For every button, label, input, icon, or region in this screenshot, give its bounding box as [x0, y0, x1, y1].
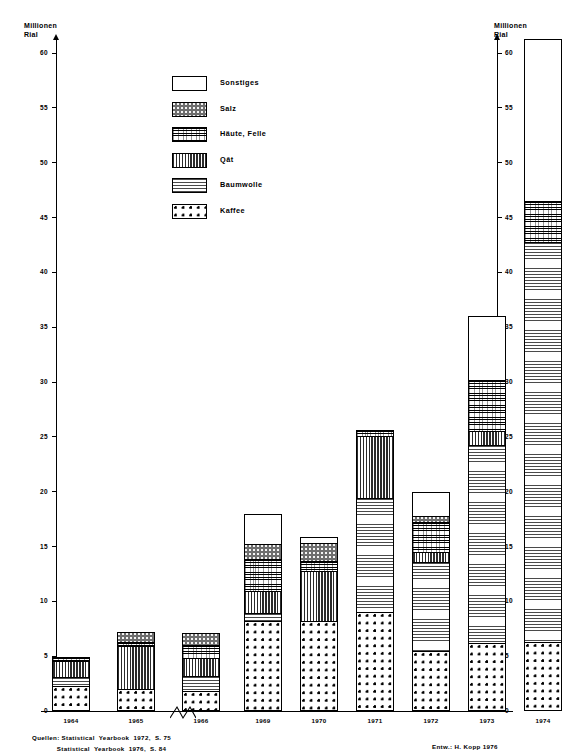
x-tick-label: 1974	[520, 717, 566, 724]
bar-segment-h-ute-felle	[52, 657, 90, 660]
bar-segment-h-ute-felle	[468, 380, 506, 432]
y-tick-label: 10	[505, 597, 523, 604]
swatch-crosshatch-icon	[172, 127, 207, 142]
y-tick-label: 25	[505, 433, 523, 440]
bar-segment-salz	[117, 632, 155, 642]
y-tick-label: 30	[505, 378, 523, 385]
bar-segment-sonstiges	[524, 39, 562, 201]
legend-label: Baumwolle	[220, 180, 263, 189]
y-tick-label: 55	[505, 104, 523, 111]
legend-label: Sonstiges	[220, 78, 259, 87]
bar-segment-h-ute-felle	[182, 645, 220, 658]
y-tick-label: 60	[30, 49, 48, 56]
bar-segment-kaffee	[244, 621, 282, 711]
y-tick-label: 15	[30, 543, 48, 550]
y-tick-label: 5	[505, 652, 523, 659]
legend-label: Kaffee	[220, 206, 245, 215]
bar-segment-q-t	[300, 571, 338, 621]
legend-swatch-fill	[173, 205, 206, 218]
legend-swatch-fill	[173, 179, 206, 192]
bar-segment-baumwolle	[412, 562, 450, 651]
bar-segment-kaffee	[356, 612, 394, 711]
bar-segment-q-t	[412, 552, 450, 562]
y-tick-label: 0	[30, 707, 48, 714]
bar-segment-salz	[300, 543, 338, 561]
y-tick-label: 45	[30, 214, 48, 221]
axis-break-icon	[170, 703, 196, 721]
bar-segment-salz	[244, 544, 282, 558]
bar-segment-q-t	[117, 646, 155, 689]
swatch-dark-stipple-icon	[172, 102, 207, 117]
bar-segment-sonstiges	[300, 537, 338, 544]
bar-segment-kaffee	[117, 689, 155, 711]
bar-1970	[300, 0, 338, 711]
bar-segment-kaffee	[300, 621, 338, 711]
bar-1972	[412, 0, 450, 711]
bar-segment-sonstiges	[244, 514, 282, 545]
y-tick-label: 0	[505, 707, 523, 714]
y-tick-label: 45	[505, 214, 523, 221]
y-tick-label: 60	[505, 49, 523, 56]
bar-1974	[524, 0, 562, 711]
bar-segment-baumwolle	[52, 677, 90, 686]
x-tick-label: 1971	[352, 717, 398, 724]
bar-segment-h-ute-felle	[117, 642, 155, 646]
legend-label: Salz	[220, 104, 236, 113]
source-note: Quellen: Statistical Yearbook 1972, S. 7…	[32, 733, 171, 754]
y-tick-label: 40	[505, 268, 523, 275]
y-tick-label: 35	[30, 323, 48, 330]
author-note: Entw.: H. Kopp 1976	[432, 743, 498, 750]
bar-segment-sonstiges	[412, 492, 450, 516]
x-axis	[41, 711, 513, 712]
y-tick-label: 10	[30, 597, 48, 604]
bar-segment-sonstiges	[468, 316, 506, 380]
y-tick-label: 55	[30, 104, 48, 111]
bar-segment-baumwolle	[182, 676, 220, 691]
bar-segment-h-ute-felle	[412, 522, 450, 552]
y-tick-label: 5	[30, 652, 48, 659]
bar-segment-kaffee	[468, 643, 506, 711]
bar-segment-q-t	[244, 591, 282, 613]
bar-segment-h-ute-felle	[356, 430, 394, 435]
bar-segment-baumwolle	[468, 445, 506, 643]
bar-segment-baumwolle	[356, 498, 394, 612]
bar-1973	[468, 0, 506, 711]
bar-segment-salz	[182, 633, 220, 645]
bar-segment-kaffee	[412, 651, 450, 711]
y-tick-label: 30	[30, 378, 48, 385]
bar-segment-salz	[412, 516, 450, 523]
x-tick-label: 1970	[296, 717, 342, 724]
y-tick-label: 35	[505, 323, 523, 330]
legend-swatch-fill	[173, 103, 206, 116]
x-tick-label: 1969	[240, 717, 286, 724]
bar-1964	[52, 0, 90, 711]
bar-segment-kaffee	[524, 642, 562, 711]
swatch-empty-icon	[172, 76, 207, 91]
y-tick-label: 20	[505, 488, 523, 495]
y-tick-label: 15	[505, 543, 523, 550]
bar-segment-q-t	[52, 661, 90, 677]
y-tick-label: 25	[30, 433, 48, 440]
bar-segment-kaffee	[52, 686, 90, 711]
x-tick-label: 1965	[113, 717, 159, 724]
legend-swatch-fill	[173, 77, 206, 90]
x-tick-label: 1973	[464, 717, 510, 724]
x-tick-label: 1964	[48, 717, 94, 724]
legend-swatch-fill	[173, 128, 206, 141]
x-tick-label: 1972	[408, 717, 454, 724]
swatch-vertical-lines-icon	[172, 153, 207, 168]
bar-1965	[117, 0, 155, 711]
bar-segment-baumwolle	[524, 242, 562, 642]
y-tick-label: 40	[30, 268, 48, 275]
bar-segment-h-ute-felle	[300, 561, 338, 571]
legend-swatch-fill	[173, 154, 206, 167]
y-tick-label: 20	[30, 488, 48, 495]
legend-label: Qāt	[220, 155, 234, 164]
bar-segment-q-t	[468, 431, 506, 444]
y-tick-label: 50	[505, 159, 523, 166]
swatch-dashed-lines-icon	[172, 178, 207, 193]
y-tick-label: 50	[30, 159, 48, 166]
legend-label: Häute, Felle	[220, 129, 266, 138]
bar-segment-baumwolle	[244, 613, 282, 621]
